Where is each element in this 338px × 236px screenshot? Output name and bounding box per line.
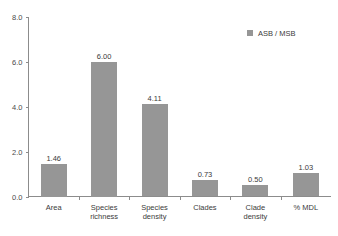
legend-swatch-icon	[247, 30, 253, 36]
bar-value-label-4: 0.50	[248, 175, 263, 184]
legend-label-asb-msb: ASB / MSB	[258, 29, 296, 38]
category-label-2: Speciesdensity	[141, 203, 168, 222]
category-label-1: Speciesrichness	[90, 203, 118, 222]
y-tick-label: 6.0	[12, 58, 22, 67]
y-tick-label: 2.0	[12, 148, 22, 157]
bar-value-label-5: 1.03	[298, 163, 313, 172]
bar-4[interactable]	[242, 185, 268, 196]
bar-0[interactable]	[41, 164, 67, 197]
bar-value-label-0: 1.46	[46, 154, 61, 163]
y-tick-label: 8.0	[12, 13, 22, 22]
category-label-0: Area	[46, 203, 63, 212]
bar-value-label-2: 4.11	[148, 94, 162, 103]
category-label-3: Clades	[193, 203, 217, 212]
category-label-4: Cladedensity	[243, 203, 267, 222]
bar-2[interactable]	[142, 104, 168, 196]
bar-value-label-1: 6.00	[97, 52, 112, 61]
bar-chart-figure: 0.02.04.06.08.0 1.466.004.110.730.501.03…	[0, 0, 338, 236]
bar-3[interactable]	[192, 180, 218, 196]
category-label-5: % MDL	[293, 203, 318, 212]
y-tick-label: 4.0	[12, 103, 22, 112]
bar-value-label-3: 0.73	[198, 170, 213, 179]
chart-canvas: 0.02.04.06.08.0 1.466.004.110.730.501.03…	[0, 0, 338, 236]
y-tick-label: 0.0	[12, 193, 22, 202]
bar-1[interactable]	[91, 62, 117, 197]
bar-5[interactable]	[293, 173, 319, 196]
